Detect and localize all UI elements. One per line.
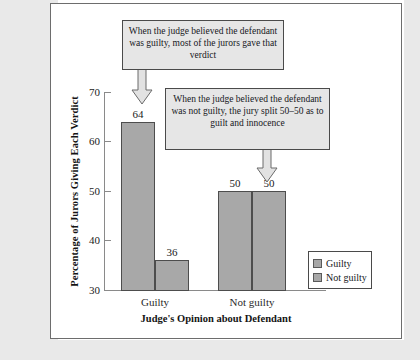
figure-frame: [50, 3, 402, 339]
backdrop-band-right: [404, 0, 420, 360]
backdrop-band-bottom: [0, 340, 420, 360]
